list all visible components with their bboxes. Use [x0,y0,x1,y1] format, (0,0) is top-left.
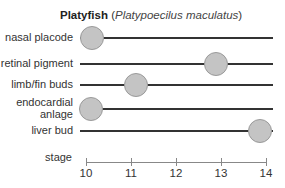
x-axis-label: stage [45,151,72,163]
data-point [248,119,272,143]
row-line [80,130,273,132]
row-label: nasal placode [5,31,73,43]
x-tick-label: 10 [80,167,93,179]
x-tick [86,158,87,166]
data-point [80,26,104,50]
data-point [124,73,148,97]
row-label: retinal pigment [1,57,73,69]
x-tick-label: 12 [170,167,183,179]
x-tick [131,158,132,166]
row-line [80,63,273,65]
row-line [80,37,273,39]
chart: Platyfish (Platypoecilus maculatus) stag… [0,0,285,188]
row-label: liver bud [31,124,73,136]
x-tick-label: 13 [215,167,228,179]
data-point [204,52,228,76]
x-tick-label: 11 [125,167,137,179]
row-label: endocardialanlage [16,96,73,120]
row-line [80,84,273,86]
row-label: limb/fin buds [11,78,73,90]
x-tick [266,158,267,166]
x-tick [176,158,177,166]
data-point [79,97,103,121]
row-line [80,108,273,110]
chart-title: Platyfish (Platypoecilus maculatus) [0,9,285,21]
x-tick-label: 14 [260,167,273,179]
x-tick [221,158,222,166]
